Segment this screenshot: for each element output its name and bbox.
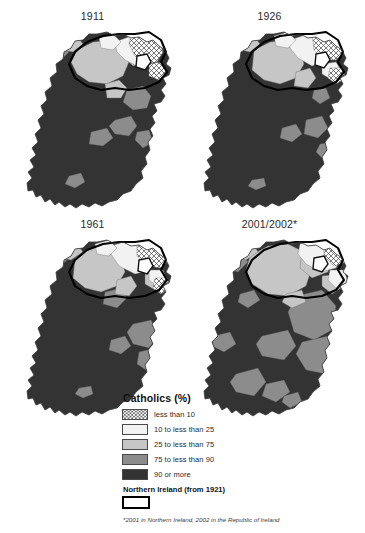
map-canvas-2001-2002 [182,232,357,418]
legend-label-10-25: 10 to less than 25 [154,425,214,434]
map-canvas-1926 [182,24,357,210]
panel-title-1911: 1911 [5,10,180,22]
map-legend: Catholics (%) less than 10 10 to less th… [122,392,302,523]
legend-row-90plus: 90 or more [122,467,302,481]
map-panel-2001-2002: 2001/2002* [182,218,357,418]
legend-boundary-title: Northern Ireland (from 1921) [123,485,302,494]
map-panel-1926: 1926 [182,10,357,210]
legend-swatch-10-25 [122,424,148,435]
legend-swatch-90plus [122,469,148,480]
map-panel-1961: 1961 [5,218,180,418]
legend-title: Catholics (%) [123,392,302,404]
legend-label-75-90: 75 to less than 90 [154,455,214,464]
legend-footnote: *2001 in Northern Ireland, 2002 in the R… [123,516,302,523]
legend-label-lt10: less than 10 [154,410,195,419]
map-panel-1911: 1911 [5,10,180,210]
legend-label-90plus: 90 or more [154,470,191,479]
panel-title-1926: 1926 [182,10,357,22]
legend-row-lt10: less than 10 [122,407,302,421]
legend-row-75-90: 75 to less than 90 [122,452,302,466]
panel-title-2001-2002: 2001/2002* [182,218,357,230]
legend-row-25-75: 25 to less than 75 [122,437,302,451]
legend-row-10-25: 10 to less than 25 [122,422,302,436]
legend-label-25-75: 25 to less than 75 [154,440,214,449]
legend-swatch-northern-ireland-boundary [122,496,150,509]
map-canvas-1961 [5,232,180,418]
legend-swatch-lt10 [122,409,148,420]
map-figure: 1911 [0,0,365,533]
legend-swatch-75-90 [122,454,148,465]
map-canvas-1911 [5,24,180,210]
panel-title-1961: 1961 [5,218,180,230]
legend-swatch-25-75 [122,439,148,450]
